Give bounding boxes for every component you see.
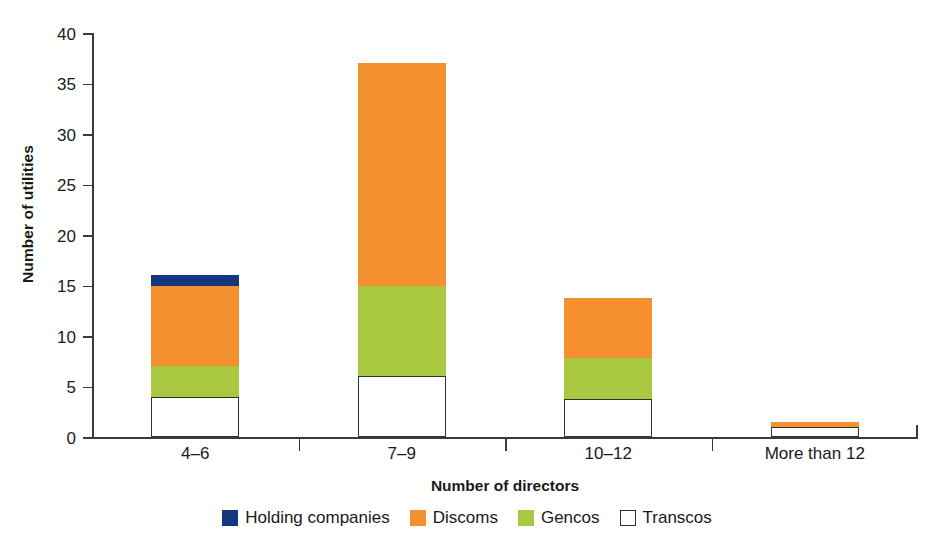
bar-segment-transcos-1 bbox=[151, 397, 239, 437]
y-tick-label-5: 5 bbox=[67, 379, 76, 396]
y-tick-label-15: 15 bbox=[57, 278, 76, 295]
bar-segment-transcos-3 bbox=[564, 399, 652, 437]
y-tick-label-30: 30 bbox=[57, 126, 76, 143]
legend-item-holding[interactable]: Holding companies bbox=[222, 508, 390, 528]
legend-swatch-transcos-icon bbox=[620, 510, 636, 526]
y-tick-10: 10 bbox=[83, 336, 92, 338]
y-tick-label-40: 40 bbox=[57, 25, 76, 42]
y-tick-35: 35 bbox=[83, 84, 92, 86]
x-tick-label-3: 10–12 bbox=[585, 444, 632, 464]
x-tick-label-2: 7–9 bbox=[388, 444, 416, 464]
bar-4 bbox=[771, 422, 859, 437]
legend-item-transcos[interactable]: Transcos bbox=[620, 508, 712, 528]
y-tick-label-10: 10 bbox=[57, 328, 76, 345]
y-tick-5: 5 bbox=[83, 387, 92, 389]
legend-item-discoms[interactable]: Discoms bbox=[410, 508, 498, 528]
legend-swatch-discoms-icon bbox=[410, 510, 426, 526]
bar-segment-transcos-2 bbox=[358, 376, 446, 437]
legend-swatch-holding-icon bbox=[222, 510, 238, 526]
y-tick-label-20: 20 bbox=[57, 227, 76, 244]
y-tick-15: 15 bbox=[83, 286, 92, 288]
bar-segment-discoms-3 bbox=[564, 298, 652, 359]
legend-label-transcos: Transcos bbox=[643, 508, 712, 528]
legend-label-holding: Holding companies bbox=[245, 508, 390, 528]
y-tick-25: 25 bbox=[83, 185, 92, 187]
bar-segment-gencos-1 bbox=[151, 366, 239, 396]
x-tick-1 bbox=[299, 438, 301, 451]
bar-segment-transcos-4 bbox=[771, 427, 859, 437]
bar-segment-discoms-2 bbox=[358, 63, 446, 285]
x-axis-title: Number of directors bbox=[92, 477, 918, 495]
legend-label-gencos: Gencos bbox=[541, 508, 600, 528]
bar-segment-holding-companies-1 bbox=[151, 275, 239, 285]
y-tick-20: 20 bbox=[83, 235, 92, 237]
chart-legend: Holding companiesDiscomsGencosTranscos bbox=[0, 508, 934, 528]
stacked-bar-chart: Number of utilities 0510152025303540 4–6… bbox=[0, 0, 934, 552]
plot-area: 0510152025303540 bbox=[92, 33, 918, 437]
bar-segment-discoms-4 bbox=[771, 422, 859, 427]
y-axis-title: Number of utilities bbox=[19, 104, 37, 324]
bar-segment-gencos-3 bbox=[564, 358, 652, 398]
legend-item-gencos[interactable]: Gencos bbox=[518, 508, 600, 528]
x-tick-3 bbox=[712, 438, 714, 451]
y-tick-label-35: 35 bbox=[57, 76, 76, 93]
bar-3 bbox=[564, 298, 652, 437]
bar-2 bbox=[358, 63, 446, 437]
y-tick-label-0: 0 bbox=[67, 429, 76, 446]
y-tick-30: 30 bbox=[83, 134, 92, 136]
legend-swatch-gencos-icon bbox=[518, 510, 534, 526]
bar-segment-discoms-1 bbox=[151, 286, 239, 367]
y-tick-40: 40 bbox=[83, 33, 92, 35]
y-axis-line bbox=[92, 33, 94, 437]
x-tick-label-4: More than 12 bbox=[765, 444, 865, 464]
y-tick-label-25: 25 bbox=[57, 177, 76, 194]
legend-label-discoms: Discoms bbox=[433, 508, 498, 528]
x-tick-label-1: 4–6 bbox=[181, 444, 209, 464]
bar-1 bbox=[151, 275, 239, 437]
x-axis-end-cap bbox=[916, 425, 918, 438]
bar-segment-gencos-2 bbox=[358, 286, 446, 377]
y-tick-0: 0 bbox=[83, 437, 99, 439]
x-tick-2 bbox=[505, 438, 507, 451]
